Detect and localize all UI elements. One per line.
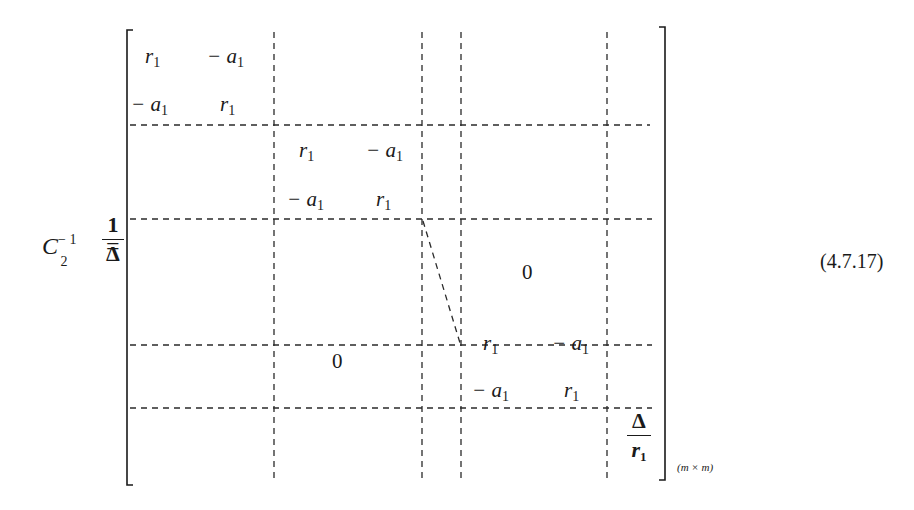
block3-r1c2: − a1 <box>552 333 589 357</box>
block2-r2c2: r1 <box>376 189 391 213</box>
lower-zero: 0 <box>332 349 343 374</box>
block1-r1c2: − a1 <box>207 46 244 70</box>
block1-r2c1: − a1 <box>131 94 168 118</box>
block3-r2c2: r1 <box>564 380 579 404</box>
last-entry-fraction: Δ r1 <box>627 410 651 463</box>
equation-number: (4.7.17) <box>820 250 883 273</box>
block2-r2c1: − a1 <box>287 189 324 213</box>
diagonal-ellipsis <box>423 221 460 343</box>
block2-r1c2: − a1 <box>366 140 403 164</box>
matrix-grid <box>0 0 914 510</box>
block3-r2c1: − a1 <box>472 380 509 404</box>
right-bracket <box>659 27 665 480</box>
upper-zero: 0 <box>522 260 533 285</box>
block1-r2c2: r1 <box>220 94 235 118</box>
dimension-label: (m × m) <box>677 461 713 473</box>
last-entry-denominator: r1 <box>627 436 651 463</box>
block1-r1c1: r1 <box>145 46 160 70</box>
last-entry-numerator: Δ <box>627 410 651 435</box>
block2-r1c1: r1 <box>299 140 314 164</box>
block3-r1c1: r1 <box>483 333 498 357</box>
